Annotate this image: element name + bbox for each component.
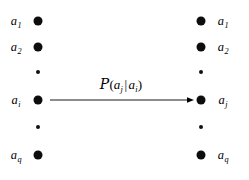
transition-probability-formula: P(aj|ai): [100, 77, 142, 91]
formula-outcome-variable: aj: [114, 77, 123, 92]
formula-outcome-subscript: j: [120, 84, 122, 94]
formula-close-paren: ): [138, 77, 142, 92]
formula-outcome-base: a: [114, 77, 121, 92]
transition-arrow-head: [187, 97, 194, 103]
formula-condition-variable: ai: [129, 77, 138, 92]
formula-condition-subscript: i: [135, 84, 137, 94]
transition-diagram: a1 a2 ai aq a1 a2 aj: [0, 0, 249, 180]
probability-operator-symbol: P: [100, 76, 110, 92]
